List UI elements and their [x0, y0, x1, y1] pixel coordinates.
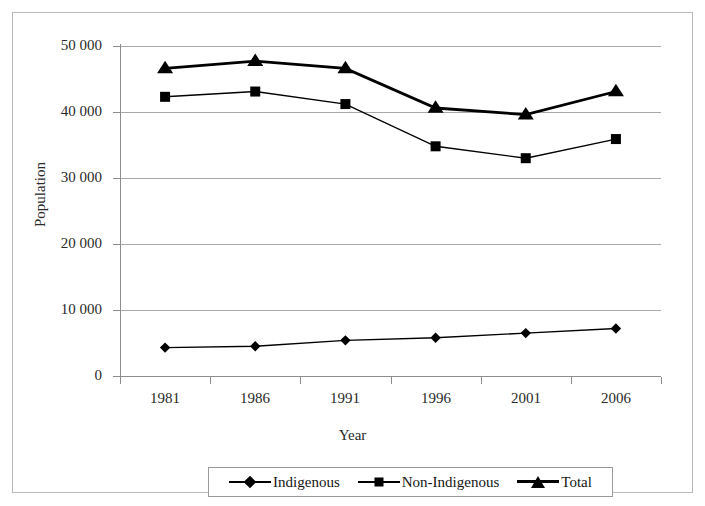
series-indigenous — [160, 323, 621, 353]
data-point-marker — [611, 323, 621, 333]
legend-diamond-icon — [244, 476, 257, 489]
data-point-marker — [611, 134, 621, 144]
legend-item-label: Non-Indigenous — [402, 474, 500, 490]
series-plot-layer — [0, 0, 705, 506]
series-line — [165, 61, 616, 114]
legend-item-indigenous[interactable]: Indigenous — [229, 474, 340, 490]
series-line — [165, 92, 616, 159]
data-point-marker — [160, 92, 170, 102]
data-point-marker — [431, 141, 441, 151]
legend-square-icon — [374, 478, 383, 487]
population-line-chart: 010 00020 00030 00040 00050 000 19811986… — [0, 0, 705, 506]
data-point-marker — [250, 341, 260, 351]
data-point-marker — [340, 99, 350, 109]
series-total — [157, 53, 624, 119]
series-non-indigenous — [160, 87, 621, 164]
legend-triangle-icon — [531, 476, 545, 488]
diamond-marker-icon — [229, 475, 271, 489]
legend-item-label: Indigenous — [273, 474, 340, 490]
data-point-marker — [340, 335, 350, 345]
data-point-marker — [250, 87, 260, 97]
data-point-marker — [521, 153, 531, 163]
legend-item-non-indigenous[interactable]: Non-Indigenous — [358, 474, 500, 490]
chart-legend: IndigenousNon-IndigenousTotal — [208, 467, 613, 497]
legend-item-total[interactable]: Total — [517, 474, 592, 490]
legend-item-label: Total — [561, 474, 592, 490]
data-point-marker — [160, 342, 170, 352]
data-point-marker — [521, 328, 531, 338]
data-point-marker — [608, 84, 624, 97]
data-point-marker — [247, 53, 263, 66]
square-marker-icon — [358, 475, 400, 489]
triangle-marker-icon — [517, 475, 559, 489]
series-line — [165, 329, 616, 348]
data-point-marker — [430, 333, 440, 343]
